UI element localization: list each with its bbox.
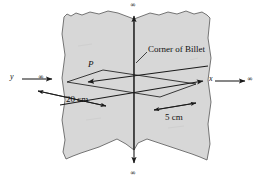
infinity-top-label: ∞ <box>130 2 136 9</box>
figure-canvas: ∞ ∞ y ∞ x ∞ P Corner of Billet 20 cm 5 c… <box>0 0 270 182</box>
point-p-label: P <box>88 60 94 69</box>
billet-left-face <box>62 11 134 159</box>
dimension-5cm-label: 5 cm <box>165 113 183 122</box>
infinity-bottom-label: ∞ <box>130 170 136 177</box>
infinity-left-label: ∞ <box>38 74 44 81</box>
axis-x-label: x <box>209 75 213 83</box>
corner-of-billet-label: Corner of Billet <box>148 45 205 54</box>
billet-right-face <box>134 11 211 160</box>
diagram-svg <box>0 0 270 182</box>
axis-y-label: y <box>10 73 14 81</box>
infinity-right-label: ∞ <box>247 76 253 83</box>
dimension-20cm-label: 20 cm <box>66 95 88 104</box>
